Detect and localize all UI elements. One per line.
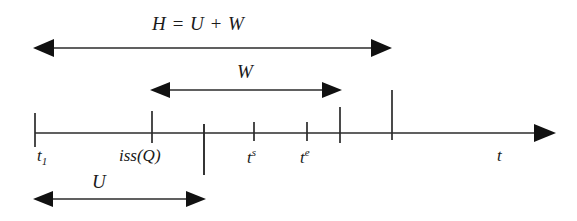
diagram-canvas (0, 0, 577, 221)
tick-label-t-e: te (300, 147, 310, 166)
tick-label-t1-subscript: 1 (42, 155, 48, 167)
tick-label-t-e-superscript: e (305, 146, 310, 158)
span-w-left-arrowhead-icon (150, 82, 170, 98)
span-w-right-arrowhead-icon (322, 82, 342, 98)
tick-label-t-s-superscript: s (252, 146, 256, 158)
tick-label-t1: t1 (37, 147, 47, 167)
span-label-w: W (237, 62, 253, 81)
tick-label-iss-q: iss(Q) (119, 147, 161, 164)
span-u-right-arrowhead-icon (186, 191, 206, 207)
span-h-right-arrowhead-icon (371, 39, 392, 57)
tick-label-t-s: ts (247, 147, 256, 166)
axis-label-t: t (497, 147, 502, 164)
span-label-u: U (92, 172, 106, 191)
span-u-left-arrowhead-icon (33, 191, 53, 207)
timeline-diagram: H = U + W W U t1 iss(Q) ts te t (0, 0, 577, 221)
time-axis-arrowhead-icon (534, 124, 556, 142)
span-label-h: H = U + W (152, 14, 244, 33)
span-h-left-arrowhead-icon (33, 39, 54, 57)
